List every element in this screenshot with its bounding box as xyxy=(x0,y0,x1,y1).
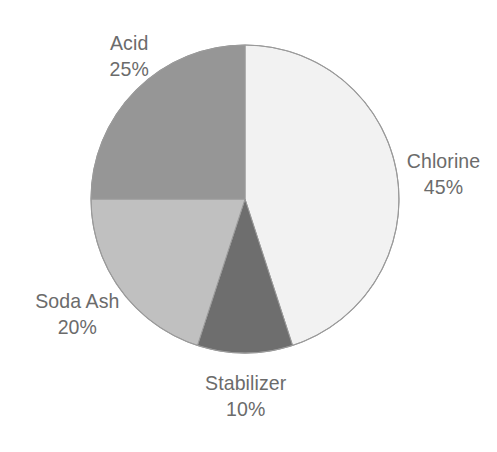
slice-label-chlorine-name: Chlorine xyxy=(407,148,480,174)
slice-label-acid: Acid 25% xyxy=(109,30,148,81)
slice-label-stabilizer-value: 10% xyxy=(205,396,286,422)
slice-label-soda-ash: Soda Ash 20% xyxy=(35,288,119,339)
slice-label-acid-name: Acid xyxy=(109,30,148,56)
slice-label-acid-value: 25% xyxy=(109,56,148,82)
pie-chart-figure: Chlorine 45% Stabilizer 10% Soda Ash 20%… xyxy=(0,0,497,452)
slice-label-chlorine: Chlorine 45% xyxy=(407,148,480,199)
slice-label-soda-ash-name: Soda Ash xyxy=(35,288,119,314)
slice-label-chlorine-value: 45% xyxy=(407,174,480,200)
slice-label-stabilizer-name: Stabilizer xyxy=(205,370,286,396)
pie-slices-group xyxy=(91,45,399,353)
slice-label-soda-ash-value: 20% xyxy=(35,314,119,340)
slice-label-stabilizer: Stabilizer 10% xyxy=(205,370,286,421)
